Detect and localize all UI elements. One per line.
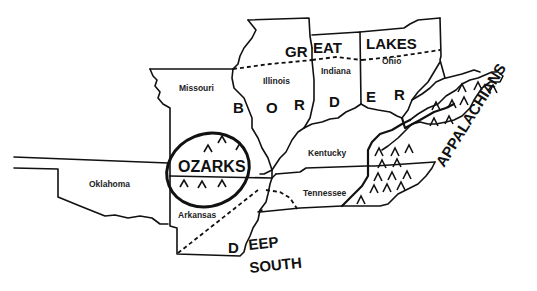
region-label-border-r: R [294, 96, 305, 113]
state-label-missouri: Missouri [179, 83, 214, 93]
regional-map: Missouri Illinois Indiana Ohio Kentucky … [0, 0, 537, 291]
region-label-border-b: B [233, 99, 244, 116]
region-label-great-lakes-1: GR [285, 43, 308, 60]
state-label-arkansas: Arkansas [178, 210, 217, 220]
region-label-appalachians: APPALACHIANS [432, 60, 509, 169]
region-label-border-e: E [366, 88, 376, 105]
state-label-oklahoma: Oklahoma [89, 179, 130, 189]
state-label-illinois: Illinois [263, 76, 290, 86]
region-label-deep-south-2: EEP [248, 233, 280, 253]
region-label-deep-south-3: SOUTH [249, 254, 303, 276]
region-label-great-lakes-3: LAKES [366, 35, 417, 52]
region-label-ozarks: OZARKS [178, 158, 246, 175]
state-oklahoma [14, 157, 168, 224]
state-tennessee [258, 162, 435, 212]
state-label-indiana: Indiana [321, 66, 351, 76]
region-label-great-lakes-2: EAT [313, 39, 342, 56]
state-label-kentucky: Kentucky [308, 148, 347, 158]
state-label-tennessee: Tennessee [303, 188, 347, 198]
state-kentucky [272, 104, 454, 174]
region-label-border-d: D [329, 93, 340, 110]
region-label-deep-south-1: D [228, 239, 239, 256]
region-label-border-r2: R [394, 86, 405, 103]
state-label-ohio: Ohio [382, 56, 401, 66]
region-label-border-o: O [266, 99, 278, 116]
